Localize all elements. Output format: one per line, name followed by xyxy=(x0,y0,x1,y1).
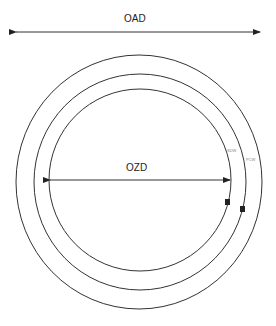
pcw-label: PCW xyxy=(246,157,255,162)
ozd-label: OZD xyxy=(126,162,147,173)
sdw-label: SDW xyxy=(227,148,236,153)
middle-ring xyxy=(34,74,246,290)
oad-label: OAD xyxy=(124,13,146,24)
marker-box-1 xyxy=(225,199,230,205)
marker-box-2 xyxy=(240,206,245,212)
